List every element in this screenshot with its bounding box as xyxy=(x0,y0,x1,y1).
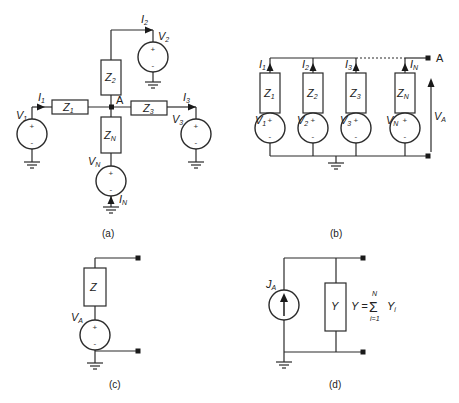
ground-icon xyxy=(103,207,119,213)
minus-sign: - xyxy=(94,339,97,348)
current-arrow-in xyxy=(402,63,409,71)
ground-icon xyxy=(145,82,161,88)
current-arrow-i2 xyxy=(310,63,317,71)
current-arrow-i3 xyxy=(353,63,360,71)
minus-sign: - xyxy=(312,132,315,141)
ground-icon xyxy=(87,363,103,369)
admittance-formula: Y = Σ N i=1 Yi xyxy=(351,290,396,322)
node-a-label: A xyxy=(436,52,444,64)
terminal-bottom xyxy=(136,349,141,354)
label-i1: I1 xyxy=(38,91,45,104)
plus-sign: + xyxy=(151,45,156,54)
terminal-top xyxy=(361,256,366,261)
minus-sign: - xyxy=(152,61,155,70)
plus-sign: + xyxy=(268,116,273,125)
ground-icon xyxy=(328,163,344,169)
plus-sign: + xyxy=(194,122,199,131)
minus-sign: - xyxy=(110,185,113,194)
label-va: VA xyxy=(71,311,83,324)
voltage-arrow-va xyxy=(428,78,435,87)
terminal-top xyxy=(136,256,141,261)
caption-a: (a) xyxy=(102,228,114,239)
current-arrow-i1 xyxy=(37,104,45,111)
terminal-a xyxy=(426,56,431,61)
label-ja: JA xyxy=(265,278,277,291)
terminal-ground xyxy=(426,154,431,159)
label-v1: V1 xyxy=(16,109,27,122)
label-z: Z xyxy=(89,281,98,293)
ground-icon xyxy=(276,362,292,368)
panel-d: JA Y Y = Σ N i=1 Yi (d) xyxy=(265,256,396,391)
plus-sign: + xyxy=(109,169,114,178)
current-arrow-i2 xyxy=(145,27,153,34)
label-i1: I1 xyxy=(259,58,266,71)
label-v2: V2 xyxy=(158,30,169,43)
terminal-bottom xyxy=(361,350,366,355)
panel-b: + - + - + - + - A VA Z1 Z2 Z3 ZN V1 xyxy=(255,52,446,239)
minus-sign: - xyxy=(195,138,198,147)
minus-sign: - xyxy=(31,138,34,147)
panel-a: A + - + - + - + - xyxy=(16,13,211,239)
ground-icon xyxy=(24,162,40,168)
label-i3: I3 xyxy=(183,91,190,104)
panel-c: Z + - VA (c) xyxy=(71,256,141,391)
plus-sign: + xyxy=(403,116,408,125)
plus-sign: + xyxy=(354,116,359,125)
node-a-dot xyxy=(109,105,114,110)
label-in: IN xyxy=(410,58,419,71)
minus-sign: - xyxy=(404,132,407,141)
plus-sign: + xyxy=(93,323,98,332)
node-a-label: A xyxy=(116,94,124,106)
label-v3: V3 xyxy=(172,113,183,126)
label-vn: VN xyxy=(88,155,101,168)
plus-sign: + xyxy=(30,122,35,131)
caption-c: (c) xyxy=(109,379,121,390)
svg-text:Y =: Y = xyxy=(351,300,368,312)
circuit-diagram: A + - + - + - + - xyxy=(0,0,459,403)
caption-b: (b) xyxy=(330,228,342,239)
label-y: Y xyxy=(331,300,339,312)
current-arrow-i3 xyxy=(188,104,196,111)
current-arrow-in xyxy=(108,196,115,204)
label-i3: I3 xyxy=(345,58,352,71)
label-i2: I2 xyxy=(141,13,148,26)
svg-text:N: N xyxy=(372,290,378,297)
svg-text:i=1: i=1 xyxy=(370,315,380,322)
label-i2: I2 xyxy=(302,58,309,71)
label-in: IN xyxy=(119,193,128,206)
label-va: VA xyxy=(434,110,446,123)
svg-text:Σ: Σ xyxy=(369,299,378,315)
svg-text:Yi: Yi xyxy=(387,300,396,313)
plus-sign: + xyxy=(311,116,316,125)
minus-sign: - xyxy=(269,132,272,141)
caption-d: (d) xyxy=(329,379,341,390)
minus-sign: - xyxy=(355,132,358,141)
current-arrow-i1 xyxy=(267,63,274,71)
ground-icon xyxy=(188,162,204,168)
